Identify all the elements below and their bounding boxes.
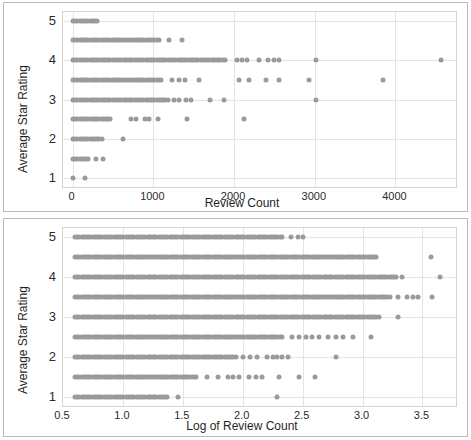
data-point [204,375,209,380]
data-point [240,355,245,360]
data-point [215,375,220,380]
data-point [314,97,319,102]
data-point [286,355,291,360]
y-axis-title-top: Average Star Rating [16,65,30,173]
data-point [257,58,262,63]
data-point [185,117,190,122]
data-point [415,294,420,299]
data-point [380,77,385,82]
y-axis-tick-label: 2 [4,130,56,145]
y-axis-tick-label: 2 [4,349,56,364]
data-point [300,234,305,239]
data-point [276,375,281,380]
data-point [196,77,201,82]
x-axis-tick-label: 2000 [221,190,245,202]
data-point [312,375,317,380]
data-point [236,77,241,82]
data-point [259,375,264,380]
data-point [237,375,242,380]
data-point [387,294,392,299]
gridline-vertical [395,12,396,187]
data-point [159,77,164,82]
x-axis-tick-label: 2.0 [234,409,249,421]
data-point [182,77,187,82]
data-point [279,335,284,340]
data-point [277,77,282,82]
data-point [314,58,319,63]
data-point [325,335,330,340]
data-point [374,254,379,259]
data-point [147,117,152,122]
data-point [265,58,270,63]
y-axis-tick-label: 5 [4,12,56,27]
gridline-vertical [234,12,235,187]
data-point [179,38,184,43]
x-axis-tick-label: 1.0 [114,409,129,421]
data-point [430,294,435,299]
data-point [304,335,309,340]
x-axis-tick-label: 1000 [140,190,164,202]
plot-wrapper-bottom: Average Star Rating Log of Review Count … [4,219,467,436]
data-point [264,355,269,360]
data-point [222,58,227,63]
data-point [133,117,138,122]
data-point [341,335,346,340]
data-point [334,355,339,360]
data-point [231,375,236,380]
data-point [156,117,161,122]
data-point [94,156,99,161]
x-axis-tick-label: 4000 [382,190,406,202]
data-point [86,156,91,161]
x-axis-tick-label: 3.0 [354,409,369,421]
x-axis-tick-label: 3.5 [414,409,429,421]
data-point [82,176,87,181]
data-point [350,335,355,340]
y-axis-tick-label: 4 [4,52,56,67]
plot-area-top [62,11,457,188]
data-point [176,395,181,400]
data-point [400,274,405,279]
y-axis-tick-label: 3 [4,91,56,106]
data-point [120,136,125,141]
x-axis-tick-label: 2.5 [294,409,309,421]
data-point [233,355,238,360]
y-axis-tick-label: 3 [4,309,56,324]
data-point [279,234,284,239]
data-point [394,274,399,279]
data-point [264,77,269,82]
data-point [71,176,76,181]
data-point [99,136,104,141]
data-point [193,375,198,380]
gridline-horizontal [63,178,456,179]
data-point [241,117,246,122]
x-axis-tick-label: 1.5 [174,409,189,421]
data-point [297,335,302,340]
x-axis-tick-label: 0.5 [54,409,69,421]
data-point [280,355,285,360]
data-point [376,315,381,320]
data-point [108,117,113,122]
data-point [169,77,174,82]
data-point [234,58,239,63]
data-point [246,375,251,380]
data-point [288,234,293,239]
data-point [171,97,176,102]
data-point [396,294,401,299]
data-point [428,254,433,259]
data-point [297,375,302,380]
data-point [101,156,106,161]
plot-area-bottom [62,227,457,407]
data-point [404,294,409,299]
data-point [253,375,258,380]
data-point [277,58,282,63]
chart-panel-log-review-count: Average Star Rating Log of Review Count … [3,218,468,437]
chart-panel-review-count: Average Star Rating Review Count 1234501… [3,2,468,212]
y-axis-tick-label: 5 [4,228,56,243]
data-point [188,97,193,102]
data-point [317,335,322,340]
data-point [307,77,312,82]
x-axis-title-bottom: Log of Review Count [32,419,452,433]
data-point [396,315,401,320]
data-point [289,335,294,340]
data-point [207,97,212,102]
